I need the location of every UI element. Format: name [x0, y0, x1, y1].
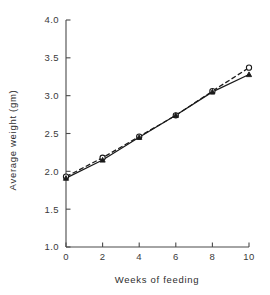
y-axis-title: Average weight (gm) [7, 90, 18, 191]
y-tick-label: 1.5 [45, 204, 59, 215]
x-tick-label: 4 [136, 251, 142, 262]
y-tick-label: 2.0 [45, 166, 59, 177]
y-tick-label: 3.0 [45, 90, 59, 101]
data-point-open-circle [246, 65, 251, 70]
y-tick-label: 3.5 [45, 52, 59, 63]
x-tick-label: 8 [210, 251, 216, 262]
line-chart: 1.01.52.02.53.03.54.0 0246810 Weeks of f… [0, 0, 270, 295]
y-tick-label: 1.0 [45, 241, 59, 252]
x-axis-title: Weeks of feeding [115, 274, 199, 285]
chart-figure: 1.01.52.02.53.03.54.0 0246810 Weeks of f… [0, 0, 270, 295]
y-tick-label: 4.0 [45, 14, 59, 25]
x-tick-label: 0 [63, 251, 69, 262]
y-tick-label: 2.5 [45, 128, 59, 139]
x-tick-label: 2 [100, 251, 106, 262]
x-tick-label: 6 [173, 251, 179, 262]
chart-background [0, 0, 270, 295]
x-tick-label: 10 [243, 251, 254, 262]
